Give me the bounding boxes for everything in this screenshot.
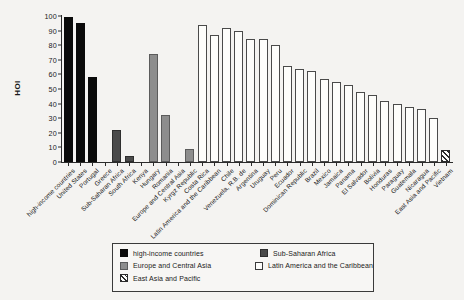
bar-slot[interactable] [391, 16, 403, 162]
bar[interactable] [234, 31, 243, 162]
chart-legend: high-income countries Sub-Saharan Africa… [112, 243, 374, 292]
x-tick-mark [251, 162, 252, 166]
bar[interactable] [441, 150, 450, 162]
bar[interactable] [222, 28, 231, 162]
bar[interactable] [112, 130, 121, 162]
x-tick-mark [275, 162, 276, 166]
bar-slot[interactable] [355, 16, 367, 162]
x-tick-mark [68, 162, 69, 166]
y-tick-label: 0 [53, 158, 57, 167]
bar[interactable] [393, 104, 402, 162]
bar-slot[interactable] [208, 16, 220, 162]
bar-slot[interactable] [111, 16, 123, 162]
x-tick-mark [80, 162, 81, 166]
bar[interactable] [295, 69, 304, 162]
x-tick-mark [239, 162, 240, 166]
bar[interactable] [246, 39, 255, 162]
bar-slot[interactable] [379, 16, 391, 162]
x-tick-mark [166, 162, 167, 166]
bar[interactable] [161, 115, 170, 162]
legend-item-east-asia-pacific: East Asia and Pacific [120, 274, 260, 282]
bar-slot[interactable] [281, 16, 293, 162]
bar-slot[interactable] [135, 16, 147, 162]
bar-slot[interactable] [62, 16, 74, 162]
bar-slot[interactable] [306, 16, 318, 162]
bar-slot[interactable] [428, 16, 440, 162]
plot-area: 0102030405060708090100 [62, 16, 452, 162]
bar-slot[interactable] [440, 16, 452, 162]
bar[interactable] [429, 118, 438, 162]
x-tick-mark [422, 162, 423, 166]
x-tick-mark [178, 162, 179, 166]
x-tick-mark [348, 162, 349, 166]
legend-item-sub-saharan-africa: Sub-Saharan Africa [260, 249, 336, 257]
hoi-bar-chart: HOI 0102030405060708090100 high-income c… [0, 0, 464, 300]
x-tick-mark [202, 162, 203, 166]
y-tick-label: 50 [49, 85, 57, 94]
bar[interactable] [64, 17, 73, 162]
bar-slot[interactable] [294, 16, 306, 162]
bar-slot[interactable] [403, 16, 415, 162]
bar-slot[interactable] [342, 16, 354, 162]
x-tick-mark [190, 162, 191, 166]
bar-slot[interactable] [220, 16, 232, 162]
bar-slot[interactable] [269, 16, 281, 162]
bar-slot[interactable] [160, 16, 172, 162]
legend-swatch-high-income-icon [120, 249, 128, 257]
bar[interactable] [210, 35, 219, 162]
legend-label: East Asia and Pacific [133, 275, 200, 282]
bar-slot[interactable] [196, 16, 208, 162]
legend-row: East Asia and Pacific [120, 274, 373, 282]
bar[interactable] [271, 45, 280, 162]
bar[interactable] [76, 23, 85, 162]
bar[interactable] [320, 79, 329, 162]
x-tick-mark [385, 162, 386, 166]
x-tick-mark [434, 162, 435, 166]
x-tick-mark [300, 162, 301, 166]
x-tick-mark [446, 162, 447, 166]
legend-item-europe-central-asia: Europe and Central Asia [120, 262, 255, 270]
x-tick-mark [373, 162, 374, 166]
x-tick-mark [409, 162, 410, 166]
bar[interactable] [380, 101, 389, 162]
bar-slot[interactable] [147, 16, 159, 162]
bar-slot[interactable] [318, 16, 330, 162]
bar-slot[interactable] [99, 16, 111, 162]
bar-series [62, 16, 452, 162]
bar-slot[interactable] [233, 16, 245, 162]
bar-slot[interactable] [245, 16, 257, 162]
x-tick-mark [397, 162, 398, 166]
bar[interactable] [344, 85, 353, 162]
legend-label: Latin America and the Caribbean [268, 262, 373, 269]
bar[interactable] [283, 66, 292, 162]
bar[interactable] [185, 149, 194, 162]
bar-slot[interactable] [172, 16, 184, 162]
legend-swatch-latin-america-caribbean-icon [255, 262, 263, 270]
bar[interactable] [368, 95, 377, 162]
bar-slot[interactable] [184, 16, 196, 162]
bar[interactable] [417, 109, 426, 162]
bar[interactable] [307, 71, 316, 162]
bar-slot[interactable] [74, 16, 86, 162]
x-tick-mark [214, 162, 215, 166]
bar-slot[interactable] [123, 16, 135, 162]
legend-swatch-east-asia-pacific-icon [120, 274, 128, 282]
x-tick-mark [129, 162, 130, 166]
y-tick-label: 20 [49, 128, 57, 137]
bar-slot[interactable] [330, 16, 342, 162]
bar[interactable] [259, 39, 268, 162]
bar-slot[interactable] [415, 16, 427, 162]
bar-slot[interactable] [257, 16, 269, 162]
bar[interactable] [88, 77, 97, 162]
y-tick-label: 30 [49, 114, 57, 123]
bar[interactable] [149, 54, 158, 162]
bar[interactable] [356, 92, 365, 162]
bar-slot[interactable] [86, 16, 98, 162]
bar[interactable] [405, 107, 414, 162]
y-tick-label: 80 [49, 41, 57, 50]
bar[interactable] [198, 25, 207, 162]
x-axis-line [61, 162, 453, 163]
bar[interactable] [332, 82, 341, 162]
bar-slot[interactable] [367, 16, 379, 162]
x-tick-mark [105, 162, 106, 166]
